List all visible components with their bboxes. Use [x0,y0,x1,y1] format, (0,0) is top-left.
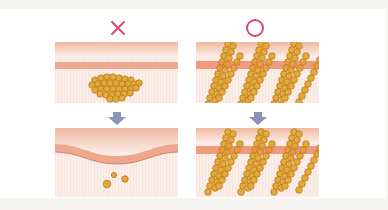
panel-good-after [196,128,319,197]
tissue-illustration [196,128,319,197]
circle-mark-icon [245,18,265,38]
panel-good-before [196,42,319,103]
tissue-illustration [196,42,319,103]
panel-bad-before [55,42,178,103]
down-arrow-icon [108,112,126,125]
tissue-illustration [55,42,178,103]
cross-mark-icon [110,20,126,36]
panel-bad-after [55,128,178,197]
cell-cluster [89,74,142,102]
scattered-cells [103,172,128,187]
down-arrow-icon [249,112,267,125]
tissue-illustration [55,128,178,197]
